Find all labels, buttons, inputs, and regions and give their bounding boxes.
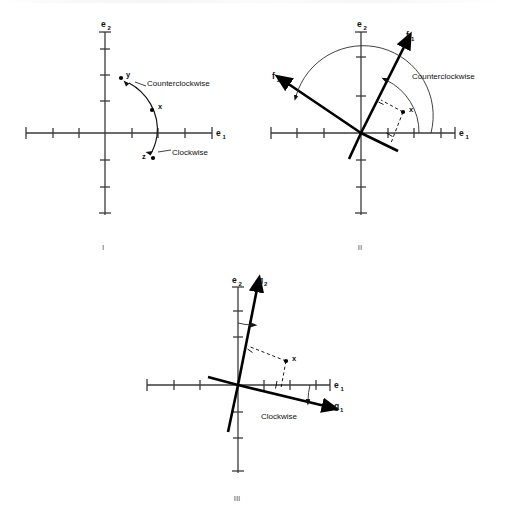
- panel-III: e 1 e 2 g 1 g 2: [147, 275, 345, 503]
- panel-III-g2-axis-line: [228, 385, 238, 432]
- panel-I-rotation-arc: [129, 83, 157, 155]
- panel-II-e1-label: e 1: [459, 128, 470, 140]
- panel-I-arc-head-bottom: [146, 151, 154, 156]
- panel-II-e2-subscript: 2: [364, 25, 368, 31]
- panel-I-cw-leader: [158, 150, 171, 152]
- panel-III-e1-label: e 1: [334, 380, 345, 392]
- panel-III-axes: e 1 e 2: [147, 275, 345, 473]
- panel-II-f2-subscript: 2: [277, 77, 281, 83]
- panel-II-f2-axis-line: [361, 133, 398, 151]
- panel-III-g1-label: g 1: [334, 401, 344, 413]
- panel-III-g1-axis-line: [208, 377, 238, 385]
- panel-III-g2-subscript: 2: [264, 281, 268, 287]
- panel-III-right-angle-g2: [248, 349, 253, 353]
- panel-II: e 1 e 2 f 1 f 2: [271, 19, 475, 252]
- panel-II-f1-axis-line: [349, 133, 361, 159]
- panel-II-e2-label: e 2: [357, 19, 368, 31]
- panel-III-point-x-label: x: [292, 354, 297, 363]
- panel-II-f2-label: f 2: [272, 71, 281, 83]
- panel-II-frame-rotation-arc: [296, 46, 433, 133]
- panel-II-f2-letter: f: [272, 71, 275, 81]
- panel-II-f1-subscript: 1: [411, 36, 415, 42]
- panel-III-e2-subscript: 2: [239, 281, 243, 287]
- panel-I-arc-head-top: [124, 81, 130, 87]
- panel-I: e 1 e 2 y x: [26, 19, 227, 252]
- panel-III-e2-letter: e: [232, 275, 237, 285]
- panel-I-clockwise-label: Clockwise: [172, 148, 209, 157]
- panel-III-g1-vector: [238, 385, 325, 406]
- panel-III-g2-letter: g: [258, 275, 263, 285]
- panel-I-e1-subscript: 1: [223, 134, 227, 140]
- panel-II-caption: II: [358, 243, 362, 252]
- panel-I-ccw-leader: [135, 82, 146, 86]
- panel-II-f1-label: f 1: [406, 30, 415, 42]
- panel-III-e1-subscript: 1: [341, 386, 345, 392]
- panel-III-g2-label: g 2: [258, 275, 268, 287]
- panel-II-e2-letter: e: [357, 19, 362, 29]
- panel-I-e2-letter: e: [101, 19, 106, 29]
- panel-II-f1-letter: f: [406, 30, 409, 40]
- panel-I-point-x-label: x: [158, 102, 163, 111]
- panel-I-axes: e 1 e 2: [26, 19, 227, 215]
- panel-III-e1-to-g1-arc: [308, 385, 310, 400]
- panel-III-projection-onto-g1: [281, 361, 286, 388]
- panel-I-point-z-label: z: [142, 152, 146, 161]
- panel-III-g1-letter: g: [334, 401, 339, 411]
- panel-II-e1-letter: e: [459, 128, 464, 138]
- panel-II-projection-onto-f2: [391, 112, 403, 143]
- panel-III-caption: III: [234, 494, 241, 503]
- panel-I-e2-subscript: 2: [108, 25, 112, 31]
- panel-II-projection-onto-f1: [381, 100, 403, 112]
- panel-I-point-y: y: [119, 70, 131, 80]
- panel-I-e1-label: e 1: [216, 128, 227, 140]
- panel-III-projection-onto-g2: [248, 346, 286, 361]
- panel-II-f1-vector: [361, 45, 405, 133]
- panel-II-e1-subscript: 1: [466, 134, 470, 140]
- panel-III-clockwise-label: Clockwise: [261, 412, 298, 421]
- panel-I-e2-label: e 2: [101, 19, 112, 31]
- panel-I-caption: I: [102, 243, 104, 252]
- panel-I-counterclockwise-label: Counterclockwise: [147, 79, 210, 88]
- figure-root: e 1 e 2 y x: [0, 0, 505, 517]
- panel-III-e2-label: e 2: [232, 275, 243, 287]
- panel-II-right-angle-f1: [379, 102, 384, 105]
- panel-I-point-y-label: y: [126, 70, 131, 79]
- panel-II-counterclockwise-label: Counterclockwise: [412, 72, 475, 81]
- panel-III-e1-letter: e: [334, 380, 339, 390]
- panel-III-g1-subscript: 1: [340, 407, 344, 413]
- panel-I-e1-letter: e: [216, 128, 221, 138]
- diagram-canvas: e 1 e 2 y x: [0, 0, 505, 517]
- panel-II-component-arc: [386, 80, 419, 133]
